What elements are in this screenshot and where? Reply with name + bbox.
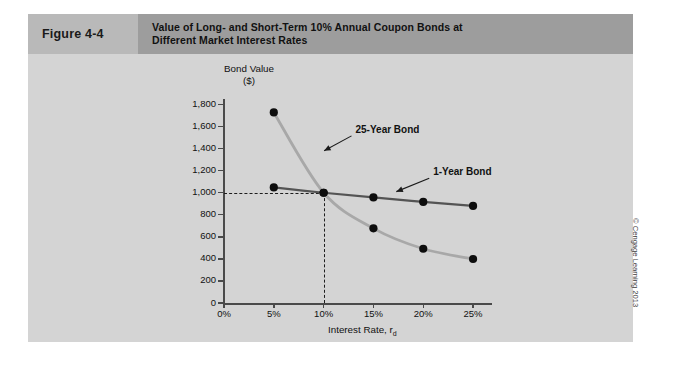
data-point-marker [419, 245, 427, 253]
figure-title-line-2: Different Market Interest Rates [152, 34, 633, 48]
x-axis-title-text: Interest Rate, r [328, 324, 393, 335]
data-series-layer [28, 54, 633, 342]
figure-title-band: Value of Long- and Short-Term 10% Annual… [138, 14, 633, 54]
data-point-marker [270, 108, 278, 116]
data-point-marker [419, 198, 427, 206]
series-label-1-year-bond: 1-Year Bond [433, 166, 491, 177]
copyright-credit: © Cengage Learning 2013 [631, 218, 640, 307]
figure-number: Figure 4-4 [42, 27, 104, 41]
figure-title-line-1: Value of Long- and Short-Term 10% Annual… [152, 21, 633, 35]
data-point-marker [469, 255, 477, 263]
data-point-marker [320, 189, 328, 197]
x-axis-title: Interest Rate, rd [328, 324, 397, 337]
figure-header: Figure 4-4 Value of Long- and Short-Term… [28, 14, 633, 54]
figure-number-band: Figure 4-4 [28, 14, 138, 54]
data-point-marker [469, 202, 477, 210]
series-label-25-year-bond: 25-Year Bond [356, 124, 420, 135]
data-point-marker [270, 183, 278, 191]
x-axis-title-subscript: d [393, 330, 397, 337]
figure-container: Figure 4-4 Value of Long- and Short-Term… [0, 0, 678, 365]
data-point-marker [369, 224, 377, 232]
plot-area: Bond Value ($) 02004006008001,0001,2001,… [28, 54, 633, 342]
data-point-marker [369, 193, 377, 201]
chart-panel: Bond Value ($) 02004006008001,0001,2001,… [28, 54, 633, 342]
